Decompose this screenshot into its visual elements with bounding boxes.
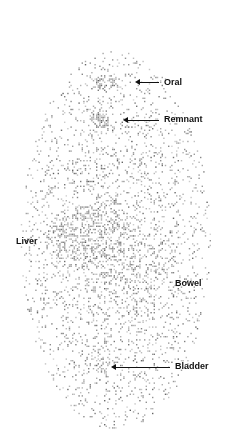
label-oral: Oral xyxy=(164,77,182,87)
oral-arrow-icon xyxy=(139,82,159,83)
label-bowel: Bowel xyxy=(175,278,202,288)
label-remnant: Remnant xyxy=(164,114,203,124)
label-bladder: Bladder xyxy=(175,361,209,371)
bladder-arrow-icon xyxy=(115,367,170,368)
remnant-arrow-icon xyxy=(127,120,159,121)
scintigraphy-image: Oral Remnant Liver Bowel Bladder xyxy=(0,0,231,432)
label-liver: Liver xyxy=(16,236,38,246)
